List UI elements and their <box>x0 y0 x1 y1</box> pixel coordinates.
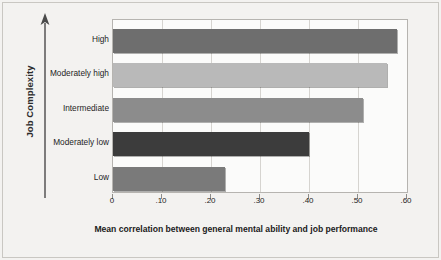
xtick-label-0.60: .60 <box>391 197 421 205</box>
y-axis-title: Job Complexity <box>24 27 35 177</box>
xtick-label-0.40: .40 <box>293 197 323 205</box>
xtick-label-0.10: .10 <box>146 197 176 205</box>
xtick-label-0: 0 <box>97 197 127 205</box>
xtick-label-0.30: .30 <box>244 197 274 205</box>
y-category-label-intermediate: Intermediate <box>48 104 109 112</box>
plot-area <box>112 19 408 193</box>
y-category-label-low: Low <box>48 173 109 181</box>
bar-low[interactable] <box>113 167 225 191</box>
y-category-label-high: High <box>48 35 109 43</box>
bar-moderately-low[interactable] <box>113 132 309 156</box>
y-category-label-moderately-low: Moderately low <box>48 138 109 146</box>
bar-high[interactable] <box>113 29 397 53</box>
x-axis-title: Mean correlation between general mental … <box>56 224 416 234</box>
xtick-label-0.50: .50 <box>342 197 372 205</box>
bar-moderately-high[interactable] <box>113 63 387 87</box>
y-axis-category-labels: High Moderately high Intermediate Modera… <box>48 19 109 193</box>
xtick-label-0.20: .20 <box>195 197 225 205</box>
y-category-label-moderately-high: Moderately high <box>48 69 109 77</box>
bar-chart-figure: Job Complexity High Moderately high Inte… <box>0 0 441 260</box>
bar-intermediate[interactable] <box>113 98 363 122</box>
